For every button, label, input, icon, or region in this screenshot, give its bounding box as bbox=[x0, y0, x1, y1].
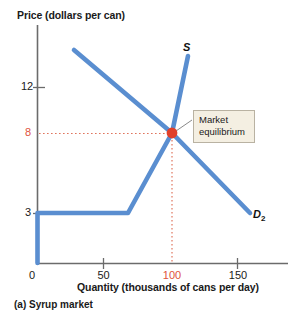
y-tick-label-12: 12 bbox=[19, 80, 35, 92]
demand-curve-label: D2 bbox=[253, 208, 265, 223]
panel-caption: (a) Syrup market bbox=[14, 299, 93, 310]
market-equilibrium-callout: Market equilibrium bbox=[193, 110, 255, 143]
demand-curve-label-text: D bbox=[253, 208, 261, 220]
annotation-leader-line bbox=[176, 120, 192, 131]
supply-curve-label: S bbox=[183, 41, 190, 53]
x-tick-label-0: 0 bbox=[25, 269, 39, 281]
x-tick-label-100: 100 bbox=[158, 269, 186, 281]
syrup-market-figure: Price (dollars per can) 12 8 3 0 50 100 … bbox=[0, 0, 301, 319]
chart-plot-area bbox=[0, 0, 301, 319]
x-axis-title: Quantity (thousands of cans per day) bbox=[77, 281, 259, 293]
callout-line-1: Market bbox=[199, 114, 250, 126]
callout-line-2: equilibrium bbox=[199, 126, 250, 138]
x-tick-label-50: 50 bbox=[93, 269, 114, 281]
y-tick-label-8: 8 bbox=[21, 126, 35, 138]
supply-curve bbox=[38, 56, 189, 263]
equilibrium-point-marker bbox=[167, 128, 178, 139]
demand-curve-label-subscript: 2 bbox=[261, 214, 265, 223]
x-tick-label-150: 150 bbox=[224, 269, 252, 281]
y-tick-label-3: 3 bbox=[21, 206, 35, 218]
